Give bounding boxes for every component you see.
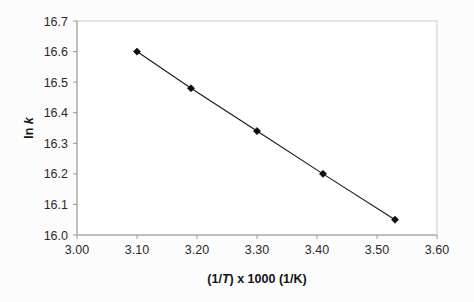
x-tick-label: 3.30 — [245, 243, 269, 257]
y-tick-label: 16.2 — [44, 167, 68, 181]
y-axis-ticks — [73, 21, 77, 235]
x-tick-label: 3.50 — [365, 243, 389, 257]
y-tick-label: 16.3 — [44, 137, 68, 151]
arrhenius-plot-svg: 16.016.116.216.316.416.516.616.7 3.003.1… — [0, 0, 474, 302]
x-tick-label: 3.00 — [65, 243, 89, 257]
x-tick-label: 3.20 — [185, 243, 209, 257]
chart-figure: 16.016.116.216.316.416.516.616.7 3.003.1… — [0, 0, 474, 302]
x-tick-label: 3.10 — [125, 243, 149, 257]
x-axis-ticks — [77, 235, 437, 239]
y-tick-label: 16.0 — [44, 229, 68, 243]
y-tick-label: 16.6 — [44, 45, 68, 59]
x-tick-label: 3.60 — [425, 243, 449, 257]
y-tick-label: 16.4 — [44, 106, 68, 120]
y-axis-tick-labels: 16.016.116.216.316.416.516.616.7 — [44, 15, 68, 243]
x-tick-label: 3.40 — [305, 243, 329, 257]
x-axis-title: (1/T) x 1000 (1/K) — [207, 272, 306, 286]
y-tick-label: 16.5 — [44, 76, 68, 90]
y-tick-label: 16.7 — [44, 15, 68, 29]
x-axis-tick-labels: 3.003.103.203.303.403.503.60 — [65, 243, 449, 257]
y-axis-title: ln k — [22, 116, 36, 139]
y-tick-label: 16.1 — [44, 198, 68, 212]
